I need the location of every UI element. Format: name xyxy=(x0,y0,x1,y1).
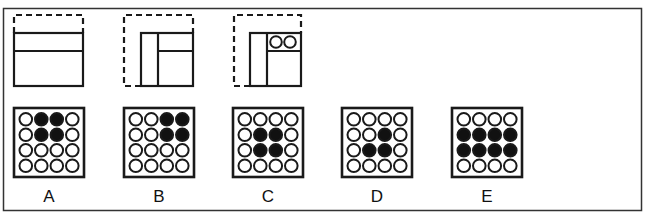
empty-hole xyxy=(145,144,158,157)
punch-hole-circle xyxy=(284,36,296,48)
empty-hole xyxy=(130,113,143,126)
option-label: E xyxy=(481,187,492,206)
option-d[interactable]: D xyxy=(342,108,412,206)
empty-hole xyxy=(20,144,33,157)
option-a[interactable]: A xyxy=(14,108,84,206)
empty-hole xyxy=(145,113,158,126)
figure-2 xyxy=(124,15,193,86)
empty-hole xyxy=(379,160,392,173)
filled-hole xyxy=(363,144,376,157)
empty-hole xyxy=(473,160,486,173)
empty-hole xyxy=(458,160,471,173)
empty-hole xyxy=(489,113,502,126)
empty-hole xyxy=(161,160,174,173)
filled-hole xyxy=(161,129,174,142)
empty-hole xyxy=(66,113,79,126)
empty-hole xyxy=(239,129,252,142)
empty-hole xyxy=(285,129,298,142)
empty-hole xyxy=(51,160,64,173)
option-b[interactable]: B xyxy=(124,108,194,206)
empty-hole xyxy=(35,144,48,157)
empty-hole xyxy=(20,160,33,173)
filled-hole xyxy=(35,113,48,126)
empty-hole xyxy=(130,160,143,173)
empty-hole xyxy=(379,113,392,126)
empty-hole xyxy=(504,113,517,126)
dashed-outline xyxy=(14,15,83,33)
answer-options: ABCDE xyxy=(14,108,522,206)
filled-hole xyxy=(254,144,267,157)
filled-hole xyxy=(489,144,502,157)
solid-rect xyxy=(250,33,301,86)
empty-hole xyxy=(239,160,252,173)
filled-hole xyxy=(473,129,486,142)
figure-3 xyxy=(234,15,301,86)
empty-hole xyxy=(239,144,252,157)
option-e[interactable]: E xyxy=(452,108,522,206)
empty-hole xyxy=(254,160,267,173)
option-label: A xyxy=(43,187,55,206)
option-label: D xyxy=(371,187,383,206)
filled-hole xyxy=(379,144,392,157)
empty-hole xyxy=(363,113,376,126)
empty-hole xyxy=(394,113,407,126)
empty-hole xyxy=(270,160,283,173)
filled-hole xyxy=(176,113,189,126)
empty-hole xyxy=(504,160,517,173)
empty-hole xyxy=(130,144,143,157)
empty-hole xyxy=(254,113,267,126)
filled-hole xyxy=(270,144,283,157)
empty-hole xyxy=(66,160,79,173)
empty-hole xyxy=(130,129,143,142)
filled-hole xyxy=(51,129,64,142)
empty-hole xyxy=(270,113,283,126)
empty-hole xyxy=(285,144,298,157)
filled-hole xyxy=(458,144,471,157)
filled-hole xyxy=(270,129,283,142)
solid-rect xyxy=(14,33,83,86)
empty-hole xyxy=(458,113,471,126)
filled-hole xyxy=(458,129,471,142)
empty-hole xyxy=(239,113,252,126)
empty-hole xyxy=(20,113,33,126)
filled-hole xyxy=(379,129,392,142)
empty-hole xyxy=(285,160,298,173)
puzzle-diagram: ABCDE xyxy=(0,0,645,216)
option-label: B xyxy=(153,187,164,206)
empty-hole xyxy=(348,129,361,142)
option-c[interactable]: C xyxy=(233,108,303,206)
empty-hole xyxy=(176,160,189,173)
empty-hole xyxy=(394,160,407,173)
filled-hole xyxy=(35,129,48,142)
empty-hole xyxy=(66,129,79,142)
empty-hole xyxy=(145,129,158,142)
empty-hole xyxy=(348,160,361,173)
figure-1 xyxy=(14,15,83,86)
empty-hole xyxy=(363,129,376,142)
filled-hole xyxy=(504,129,517,142)
filled-hole xyxy=(473,144,486,157)
empty-hole xyxy=(394,144,407,157)
filled-hole xyxy=(176,129,189,142)
filled-hole xyxy=(489,129,502,142)
empty-hole xyxy=(348,113,361,126)
filled-hole xyxy=(504,144,517,157)
empty-hole xyxy=(20,129,33,142)
option-label: C xyxy=(262,187,274,206)
empty-hole xyxy=(51,144,64,157)
filled-hole xyxy=(51,113,64,126)
outer-frame xyxy=(4,9,642,211)
punch-hole-circle xyxy=(270,36,282,48)
empty-hole xyxy=(176,144,189,157)
empty-hole xyxy=(35,160,48,173)
empty-hole xyxy=(489,160,502,173)
filled-hole xyxy=(161,113,174,126)
empty-hole xyxy=(363,160,376,173)
empty-hole xyxy=(161,144,174,157)
solid-rect xyxy=(141,33,193,86)
empty-hole xyxy=(348,144,361,157)
empty-hole xyxy=(145,160,158,173)
empty-hole xyxy=(285,113,298,126)
empty-hole xyxy=(394,129,407,142)
filled-hole xyxy=(254,129,267,142)
